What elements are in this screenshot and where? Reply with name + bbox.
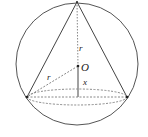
label-radius-upper: r xyxy=(79,43,83,53)
label-radius-slant: r xyxy=(47,72,51,82)
center-point-O xyxy=(77,65,80,68)
axis-apex-to-center xyxy=(77,2,78,66)
label-center-O: O xyxy=(81,61,89,73)
cone-left-side xyxy=(27,2,77,97)
apex-point xyxy=(76,1,78,3)
base-right-point xyxy=(126,96,129,99)
label-x: x xyxy=(82,77,87,87)
base-left-point xyxy=(26,96,29,99)
cone-in-sphere-diagram: O r r x xyxy=(0,0,148,137)
